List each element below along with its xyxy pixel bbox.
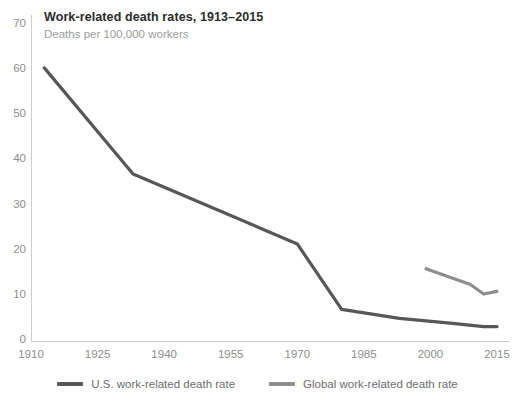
chart-figure: Work-related death rates, 1913–2015 Deat… <box>0 0 515 398</box>
x-tick-label: 1955 <box>201 348 261 360</box>
y-tick-label: 10 <box>0 288 26 300</box>
series-line-us <box>44 68 497 327</box>
y-tick-label: 50 <box>0 107 26 119</box>
y-tick-label: 0 <box>0 333 26 345</box>
y-tick-label: 70 <box>0 17 26 29</box>
y-tick-label: 20 <box>0 243 26 255</box>
x-tick-label: 1970 <box>267 348 327 360</box>
legend-label: Global work-related death rate <box>303 378 458 390</box>
y-tick-label: 40 <box>0 152 26 164</box>
data-series <box>44 68 497 327</box>
chart-legend: U.S. work-related death rateGlobal work-… <box>0 378 515 390</box>
legend-swatch-icon <box>57 382 83 386</box>
axes <box>32 15 510 342</box>
legend-item-global[interactable]: Global work-related death rate <box>269 378 458 390</box>
x-tick-label: 2015 <box>467 348 515 360</box>
legend-label: U.S. work-related death rate <box>91 378 235 390</box>
legend-item-us[interactable]: U.S. work-related death rate <box>57 378 235 390</box>
legend-swatch-icon <box>269 382 295 386</box>
x-tick-label: 1940 <box>134 348 194 360</box>
x-tick-label: 1985 <box>334 348 394 360</box>
x-tick-label: 2000 <box>400 348 460 360</box>
x-tick-label: 1910 <box>1 348 61 360</box>
x-tick-label: 1925 <box>68 348 128 360</box>
plot-area <box>0 0 515 398</box>
series-line-global <box>426 269 497 294</box>
y-tick-label: 60 <box>0 62 26 74</box>
y-tick-label: 30 <box>0 198 26 210</box>
